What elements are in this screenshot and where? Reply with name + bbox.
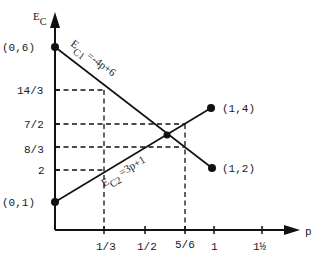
equation-ec2: EC2=3p+1 <box>99 153 150 193</box>
label-1-2: (1,2) <box>222 163 255 175</box>
point-0-6 <box>51 43 59 51</box>
y-label-2: 2 <box>38 165 45 177</box>
y-axis-arrow-icon <box>50 12 60 28</box>
y-label-0-6: (0,6) <box>2 42 35 54</box>
diagram-canvas: EC p (0,6) 14/3 7/2 8/3 2 (0,1) 1/3 1/2 … <box>0 0 319 259</box>
point-1-2 <box>208 164 216 172</box>
x-label-1: 1 <box>211 241 218 253</box>
y-label-7-2: 7/2 <box>24 119 44 131</box>
x-axis-arrow-icon <box>284 225 300 235</box>
point-1-4 <box>207 104 215 112</box>
y-axis-label: EC <box>33 10 47 27</box>
y-label-14-3: 14/3 <box>17 85 43 97</box>
y-label-8-3: 8/3 <box>24 144 44 156</box>
svg-text:EC2=3p+1: EC2=3p+1 <box>99 153 150 193</box>
x-label-1-2: 1/2 <box>137 241 157 253</box>
point-intersection <box>164 132 171 139</box>
x-label-1-3: 1/3 <box>96 241 116 253</box>
label-1-4: (1,4) <box>222 103 255 115</box>
x-axis-label: p <box>305 226 312 238</box>
line-ec1 <box>55 47 212 168</box>
x-label-5-6: 5/6 <box>175 239 195 251</box>
point-0-1 <box>51 198 59 206</box>
x-label-1-5: 1½ <box>253 241 267 253</box>
y-label-0-1: (0,1) <box>2 197 35 209</box>
line-ec2 <box>55 108 211 202</box>
